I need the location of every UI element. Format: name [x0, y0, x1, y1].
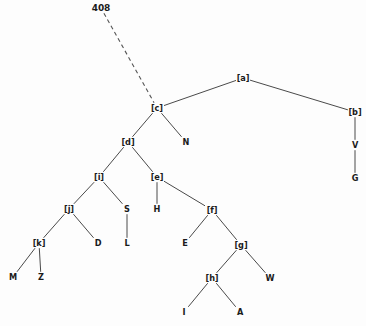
tree-node-E: E [182, 239, 189, 247]
tree-node-D: D [94, 239, 102, 247]
tree-edge-d-i [103, 147, 123, 172]
tree-node-S: S [124, 205, 131, 213]
tree-edge-f-E [189, 215, 208, 238]
tree-node-M: M [8, 273, 17, 281]
tree-edge-c-a [164, 80, 236, 105]
tree-node-b: [b] [348, 108, 362, 116]
tree-node-W: W [265, 274, 275, 282]
tree-edge-j-k [44, 214, 65, 238]
tree-node-N: N [182, 138, 190, 146]
tree-edges-canvas [0, 0, 366, 326]
tree-node-c: [c] [150, 104, 163, 112]
tree-node-root: 408 [92, 4, 111, 13]
tree-edge-j-D [73, 214, 93, 238]
tree-node-h: [h] [205, 274, 219, 282]
tree-node-k: [k] [32, 239, 46, 247]
tree-node-e: [e] [150, 173, 164, 181]
tree-node-f: [f] [206, 206, 218, 214]
tree-edge-e-f [164, 181, 205, 206]
tree-edge-k-M [17, 248, 35, 272]
tree-edge-h-A [216, 283, 235, 307]
tree-edge-h-I [188, 283, 207, 307]
tree-edge-g-h [217, 250, 237, 273]
tree-edge-k-Z [39, 248, 40, 272]
tree-node-I: I [182, 308, 186, 316]
tree-edge-a-b [250, 80, 348, 110]
tree-edge-f-g [216, 215, 236, 240]
tree-node-A: A [236, 308, 243, 316]
tree-node-L: L [124, 239, 130, 247]
tree-node-H: H [153, 205, 161, 213]
tree-edge-i-j [74, 182, 94, 204]
tree-edge-c-N [161, 113, 181, 137]
tree-node-j: [j] [63, 205, 74, 213]
tree-node-i: [i] [93, 173, 104, 181]
tree-node-a: [a] [236, 74, 250, 82]
tree-edge-d-e [132, 147, 152, 172]
tree-edge-i-S [104, 182, 123, 204]
tree-edge-g-W [246, 250, 266, 273]
tree-edge-c-d [132, 113, 152, 137]
tree-node-G: G [351, 174, 359, 182]
tree-node-d: [d] [121, 138, 135, 146]
tree-edge-root-c [104, 13, 154, 103]
tree-node-Z: Z [37, 273, 44, 281]
tree-node-g: [g] [234, 241, 248, 249]
tree-node-V: V [351, 141, 358, 149]
